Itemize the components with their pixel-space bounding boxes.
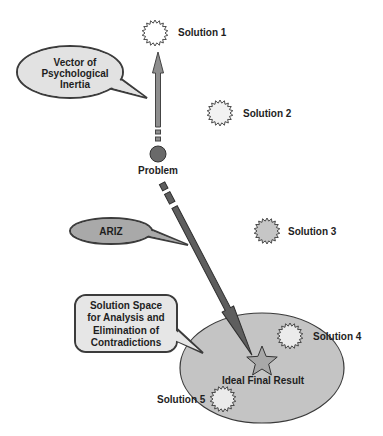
- solution-space-callout: Solution Space for Analysis and Eliminat…: [75, 295, 203, 353]
- callout-line: Solution Space: [90, 300, 163, 311]
- starburst-icon: [142, 20, 168, 46]
- starburst-icon: [254, 218, 280, 244]
- psychological-inertia-callout: Vector of Psychological Inertia: [17, 46, 147, 98]
- solution-label: Solution 4: [313, 331, 362, 342]
- ariz-callout: ARIZ: [70, 218, 188, 245]
- solution-3: Solution 3: [254, 218, 337, 244]
- starburst-icon: [207, 100, 233, 126]
- inertia-arrow: [153, 52, 164, 141]
- ariz-label: ARIZ: [99, 226, 122, 237]
- solution-label: Solution 5: [157, 394, 206, 405]
- solution-1: Solution 1: [142, 20, 227, 46]
- callout-line: Vector of: [54, 57, 97, 68]
- callout-line: Elimination of: [93, 325, 160, 336]
- ideal-final-result-label: Ideal Final Result: [222, 375, 305, 386]
- solution-label: Solution 2: [243, 108, 292, 119]
- solution-label: Solution 3: [288, 226, 337, 237]
- callout-line: Inertia: [60, 79, 90, 90]
- triz-diagram: Vector of Psychological Inertia ARIZ Sol…: [0, 0, 383, 436]
- solution-2: Solution 2: [207, 100, 292, 126]
- callout-line: Psychological: [41, 68, 108, 79]
- problem-node-icon: [150, 146, 166, 162]
- callout-line: Contradictions: [91, 337, 162, 348]
- problem-label: Problem: [138, 165, 178, 176]
- solution-label: Solution 1: [178, 27, 227, 38]
- callout-line: for Analysis and: [87, 312, 164, 323]
